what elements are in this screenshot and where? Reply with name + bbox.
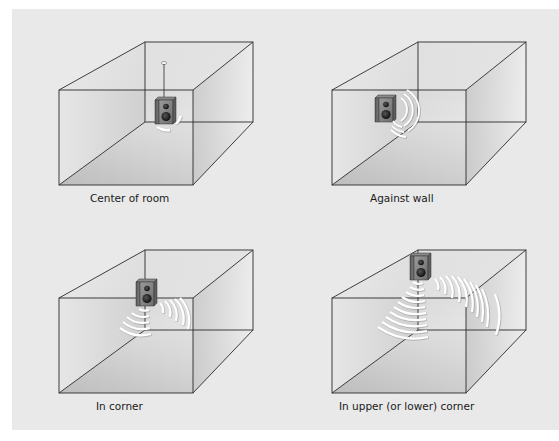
room-wall <box>332 42 526 185</box>
speaker-placement-diagram <box>0 0 559 441</box>
caption-against-wall: Against wall <box>370 192 434 204</box>
room-upper-corner <box>332 250 526 393</box>
caption-in-corner: In corner <box>96 400 143 412</box>
speaker-icon <box>410 253 431 280</box>
speaker-icon <box>375 95 396 122</box>
room-corner <box>59 250 253 393</box>
caption-center-of-room: Center of room <box>90 192 169 204</box>
speaker-icon <box>155 97 176 124</box>
speaker-icon <box>136 279 157 306</box>
room-center <box>59 42 253 185</box>
caption-in-upper-corner: In upper (or lower) corner <box>339 400 474 412</box>
